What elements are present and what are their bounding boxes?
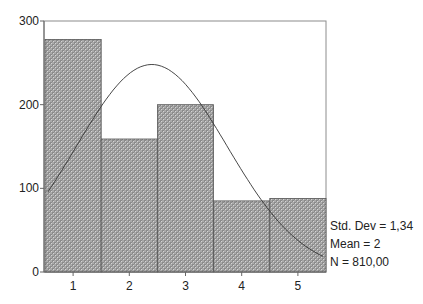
x-tick-label: 5	[295, 279, 302, 293]
std-dev-label: Std. Dev = 1,34	[330, 219, 413, 233]
y-tick-label: 0	[32, 265, 39, 279]
histogram-bar	[101, 139, 157, 272]
y-tick-label: 200	[19, 98, 39, 112]
y-tick-label: 100	[19, 181, 39, 195]
y-tick-label: 300	[19, 14, 39, 28]
histogram-bar	[214, 201, 270, 272]
x-tick-label: 2	[126, 279, 133, 293]
x-tick-label: 4	[238, 279, 245, 293]
x-tick-label: 1	[70, 279, 77, 293]
x-axis-ticks: 12345	[70, 272, 302, 293]
n-label: N = 810,00	[330, 255, 389, 269]
mean-label: Mean = 2	[330, 237, 381, 251]
y-axis-ticks: 0100200300	[19, 14, 44, 279]
x-tick-label: 3	[182, 279, 189, 293]
histogram-bar	[270, 198, 326, 272]
histogram-bar	[157, 105, 213, 272]
histogram-chart: 0100200300 12345 Std. Dev = 1,34 Mean = …	[0, 0, 423, 304]
histogram-bar	[45, 39, 101, 272]
